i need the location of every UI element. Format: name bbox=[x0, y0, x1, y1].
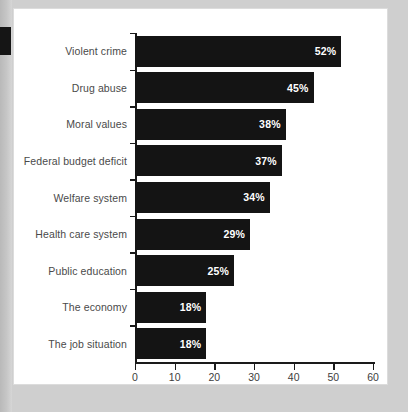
y-axis-tick bbox=[130, 143, 135, 144]
x-axis-tick-label: 40 bbox=[288, 371, 300, 383]
x-axis-tick bbox=[373, 364, 374, 370]
bar: 37% bbox=[135, 145, 282, 176]
category-label: The economy bbox=[11, 301, 127, 313]
category-label: Violent crime bbox=[11, 45, 127, 57]
category-label: Drug abuse bbox=[11, 82, 127, 94]
bar-row: 18% bbox=[135, 292, 373, 323]
bar-value-label: 37% bbox=[255, 155, 277, 167]
x-axis-tick bbox=[214, 364, 215, 370]
bar: 29% bbox=[135, 219, 250, 250]
bar-row: 29% bbox=[135, 219, 373, 250]
bar-row: 37% bbox=[135, 145, 373, 176]
bar-value-label: 18% bbox=[180, 338, 202, 350]
bar-row: 38% bbox=[135, 109, 373, 140]
y-axis-tick bbox=[130, 216, 135, 217]
x-axis-tick bbox=[175, 364, 176, 370]
x-axis-tick bbox=[333, 364, 334, 370]
bar-value-label: 45% bbox=[287, 82, 309, 94]
x-axis-tick-label: 30 bbox=[248, 371, 260, 383]
y-axis-tick bbox=[130, 70, 135, 71]
bar: 52% bbox=[135, 36, 341, 67]
bar-row: 18% bbox=[135, 328, 373, 359]
bar-value-label: 34% bbox=[243, 191, 265, 203]
bar: 18% bbox=[135, 328, 206, 359]
bar: 38% bbox=[135, 109, 286, 140]
x-axis-tick-label: 60 bbox=[367, 371, 379, 383]
bar-value-label: 25% bbox=[208, 265, 230, 277]
category-label: Health care system bbox=[11, 228, 127, 240]
horizontal-bar-chart: Violent crimeDrug abuseMoral valuesFeder… bbox=[13, 8, 388, 385]
bar-row: 45% bbox=[135, 72, 373, 103]
x-axis-tick-label: 10 bbox=[169, 371, 181, 383]
x-axis-tick bbox=[294, 364, 295, 370]
x-axis-tick-label: 0 bbox=[132, 371, 138, 383]
bar-value-label: 18% bbox=[180, 301, 202, 313]
bar: 45% bbox=[135, 72, 314, 103]
y-axis-tick bbox=[130, 325, 135, 326]
bar-row: 25% bbox=[135, 255, 373, 286]
scan-edge-strip bbox=[0, 0, 12, 412]
y-axis-tick bbox=[130, 179, 135, 180]
bar: 34% bbox=[135, 182, 270, 213]
y-axis-top-cap-tick bbox=[130, 33, 135, 34]
bar: 18% bbox=[135, 292, 206, 323]
x-axis-tick-label: 20 bbox=[208, 371, 220, 383]
x-axis-tick bbox=[254, 364, 255, 370]
y-axis-tick bbox=[130, 252, 135, 253]
category-label: Welfare system bbox=[11, 192, 127, 204]
bar: 25% bbox=[135, 255, 234, 286]
category-label: The job situation bbox=[11, 338, 127, 350]
category-label: Federal budget deficit bbox=[11, 155, 127, 167]
y-axis-tick bbox=[130, 289, 135, 290]
bar-row: 34% bbox=[135, 182, 373, 213]
category-label: Public education bbox=[11, 265, 127, 277]
bar-row: 52% bbox=[135, 36, 373, 67]
bar-value-label: 52% bbox=[315, 45, 337, 57]
x-axis-tick bbox=[135, 364, 136, 370]
x-axis-tick-label: 50 bbox=[327, 371, 339, 383]
category-label: Moral values bbox=[11, 118, 127, 130]
y-axis-tick bbox=[130, 106, 135, 107]
bar-value-label: 29% bbox=[223, 228, 245, 240]
bar-value-label: 38% bbox=[259, 118, 281, 130]
scan-edge-mark bbox=[0, 27, 11, 55]
